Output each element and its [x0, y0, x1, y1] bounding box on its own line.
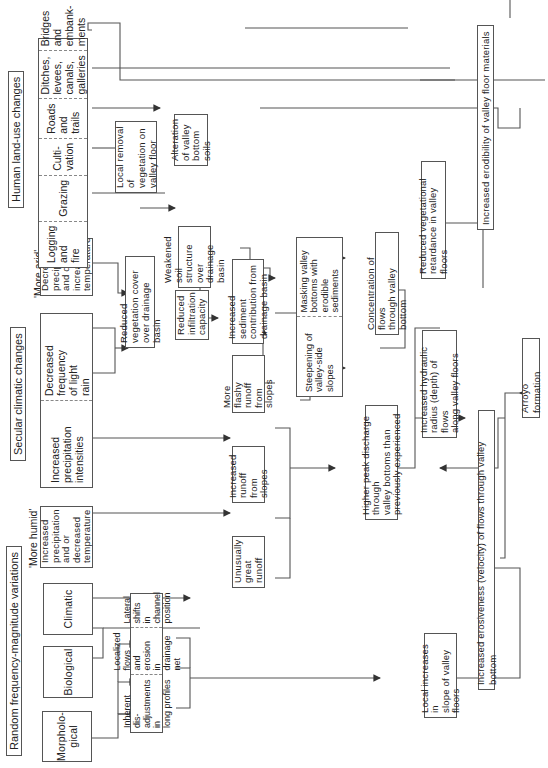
- node-logging: Logging and fire: [39, 221, 87, 267]
- node-inherent-disadjustments: Inherent dis- adjustments in long profil…: [131, 674, 162, 732]
- node-concentration-text: Concentration of flows through valley bo…: [366, 237, 408, 330]
- node-increased-sediment: Increased sediment contribution from dra…: [232, 259, 264, 344]
- node-localized-flows: Localized flows and erosion in drainage …: [131, 627, 162, 674]
- node-local-slope: Local increases in slope of valley floor…: [424, 633, 457, 718]
- node-reduced-infiltration: Reduced infiltration capacity: [175, 290, 209, 340]
- node-increased-runoff: Increased runoff from slopes: [232, 446, 265, 503]
- node-more-flashy-text: More flashy runoff from slopes: [222, 360, 275, 408]
- node-local-removal-text: Local removal of vegetation on valley fl…: [114, 126, 158, 188]
- node-cultivation: Culti- vation: [39, 138, 87, 175]
- node-unusually-great: Unusually great runoff: [232, 536, 265, 588]
- node-weakened-soil-text: Weakened soil structure over drainage ba…: [163, 231, 226, 283]
- node-biological: Biological: [43, 646, 93, 698]
- node-bridges: Bridges and embank- ments: [39, 2, 87, 51]
- node-increased-runoff-text: Increased runoff from slopes: [228, 451, 270, 498]
- node-arroyo-formation-text: Arroyo formation: [519, 343, 543, 413]
- node-steepening: Steepening of valley-side slopes: [297, 317, 342, 397]
- node-morphological: Morpholo- gical: [42, 711, 92, 762]
- node-weakened-soil: Weakened soil structure over drainage ba…: [178, 226, 211, 288]
- node-erodibility: Increased erodibility of valley floor ma…: [477, 25, 494, 230]
- node-arroyo-formation: Arroyo formation: [522, 338, 540, 418]
- node-channel-changes: Inherent dis- adjustments in long profil…: [130, 593, 163, 733]
- node-more-flashy: More flashy runoff from slopes: [232, 355, 265, 413]
- node-erosiveness: Increased erosiveness (velocity) of flow…: [478, 410, 495, 690]
- node-ditches: Ditches, levees, canals, galleries: [39, 50, 87, 98]
- node-valley-changes: Steepening of valley-side slopes Masking…: [296, 237, 343, 397]
- node-local-removal: Local removal of vegetation on valley fl…: [115, 121, 157, 193]
- arroyo-flowchart: Random frequency-magnitude variations Se…: [0, 0, 548, 768]
- node-biological-text: Biological: [62, 649, 74, 696]
- node-decreased-light-rain: Decreased frequency of light rain: [41, 314, 92, 400]
- node-alteration-soils: Alteration of valley bottom soils: [174, 114, 208, 166]
- node-lateral-shifts: Lateral shifts in channel position: [131, 588, 162, 628]
- more-humid-tag: 'More humid': [27, 509, 39, 568]
- node-climatic: Climatic: [43, 583, 93, 635]
- node-veg-retardance: Reduced vegetational retardance in valle…: [421, 161, 446, 279]
- node-reduced-veg-cover-text: Reduced vegetation cover over drainage b…: [118, 261, 162, 343]
- node-morphological-text: Morpholo- gical: [55, 712, 79, 761]
- node-erodibility-text: Increased erodibility of valley floor ma…: [480, 31, 492, 225]
- group-label-human: Human land-use changes: [8, 71, 24, 208]
- node-roads: Roads and trails: [39, 98, 87, 137]
- node-local-slope-text: Local increases in slope of valley floor…: [420, 638, 462, 713]
- node-hydraulic-radius: Increased hydraulic radius (depth) of fl…: [422, 330, 457, 438]
- node-higher-peak: Higher peak discharge through valley bot…: [365, 405, 398, 520]
- node-increased-intensities: Increased precipitation intensities: [41, 400, 92, 487]
- node-concentration: Concentration of flows through valley bo…: [375, 232, 399, 335]
- node-rain-changes: Increased precipitation intensities Decr…: [40, 313, 93, 488]
- node-hydraulic-radius-text: Increased hydraulic radius (depth) of fl…: [419, 335, 461, 433]
- node-grazing: Grazing: [39, 175, 87, 221]
- node-climatic-text: Climatic: [62, 590, 74, 629]
- node-erosiveness-text: Increased erosiveness (velocity) of flow…: [475, 415, 499, 685]
- node-higher-peak-text: Higher peak discharge through valley bot…: [361, 410, 403, 515]
- node-veg-retardance-text: Reduced vegetational retardance in valle…: [418, 166, 450, 274]
- node-reduced-veg-cover: Reduced vegetation cover over drainage b…: [125, 256, 155, 348]
- node-more-humid-text: Increased precipitation and or decreased…: [40, 509, 93, 563]
- node-human-land-use: Logging and fire Grazing Culti- vation R…: [38, 38, 88, 268]
- node-unusually-great-text: Unusually great runoff: [233, 539, 265, 583]
- node-masking: Masking valley bottoms with erodible sed…: [297, 238, 342, 317]
- node-alteration-soils-text: Alteration of valley bottom soils: [170, 119, 212, 161]
- node-more-humid: Increased precipitation and or decreased…: [40, 506, 93, 568]
- group-label-random: Random frequency-magnitude variations: [6, 546, 22, 756]
- node-reduced-infiltration-text: Reduced infiltration capacity: [176, 292, 208, 335]
- group-label-secular: Secular climatic changes: [10, 327, 26, 461]
- node-increased-sediment-text: Increased sediment contribution from dra…: [227, 264, 269, 339]
